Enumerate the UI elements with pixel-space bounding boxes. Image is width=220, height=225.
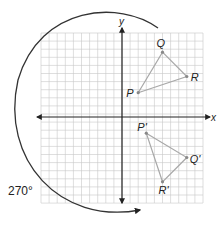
triangle-pqr-prime: P'Q'R' xyxy=(137,121,201,196)
vertex-R xyxy=(185,75,188,78)
label-Q-prime: Q' xyxy=(190,153,202,165)
vertex-Q xyxy=(161,51,164,54)
y-axis-label: y xyxy=(118,16,125,27)
rotation-diagram: x y 270° PQRP'Q'R' xyxy=(0,0,220,225)
x-axis-label: x xyxy=(210,112,217,123)
label-R: R xyxy=(191,71,199,83)
label-P-prime: P' xyxy=(137,121,147,133)
rotation-angle-label: 270° xyxy=(8,184,33,198)
label-Q: Q xyxy=(157,37,166,49)
label-R-prime: R' xyxy=(159,184,170,196)
vertex-P xyxy=(137,91,140,94)
vertex-Q-prime xyxy=(185,156,188,159)
rotation-arc xyxy=(15,12,158,212)
label-P: P xyxy=(126,87,134,99)
